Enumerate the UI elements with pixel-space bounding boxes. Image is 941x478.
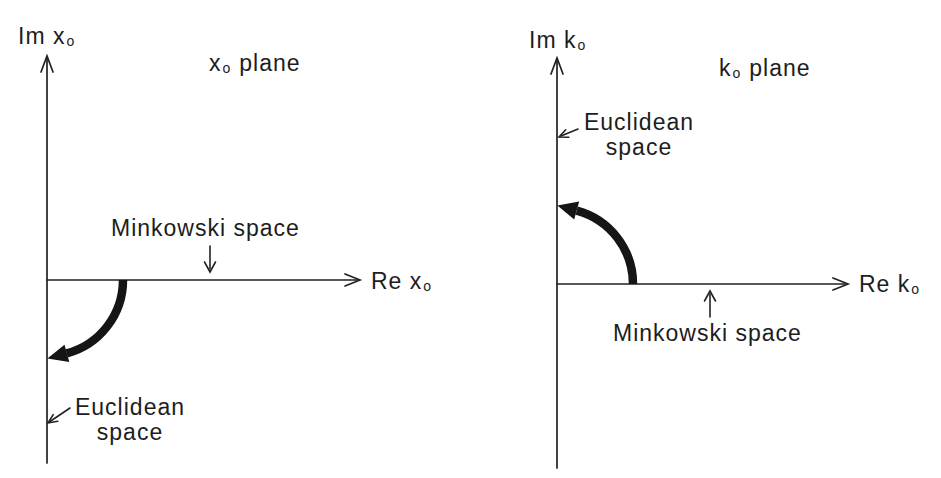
left-im-axis-label: Im xo [18, 24, 74, 49]
right-euclidean-label: Euclideanspace [581, 110, 697, 161]
left-euclidean-label: Euclideanspace [72, 395, 188, 446]
left-rotation-arc [67, 280, 123, 353]
right-rotation-arc [577, 211, 633, 284]
left-minkowski-label: Minkowski space [111, 216, 300, 241]
right-re-axis-label: Re ko [859, 272, 919, 297]
left-plane-title: xoplane [209, 51, 301, 76]
right-im-axis-label: Im ko [529, 28, 585, 53]
right-minkowski-label: Minkowski space [613, 321, 802, 346]
left-wick-rotation-arrow [47, 280, 123, 362]
left-re-axis-label: Re xo [371, 269, 431, 294]
right-wick-rotation-arrow [557, 201, 633, 284]
wick-rotation-figure: Im xo xoplane Minkowski space Re xo Eucl… [0, 0, 941, 478]
right-plane-title: koplane [719, 56, 811, 81]
left-rotation-arrowhead-icon [47, 345, 69, 362]
right-rotation-arrowhead-icon [557, 201, 579, 219]
